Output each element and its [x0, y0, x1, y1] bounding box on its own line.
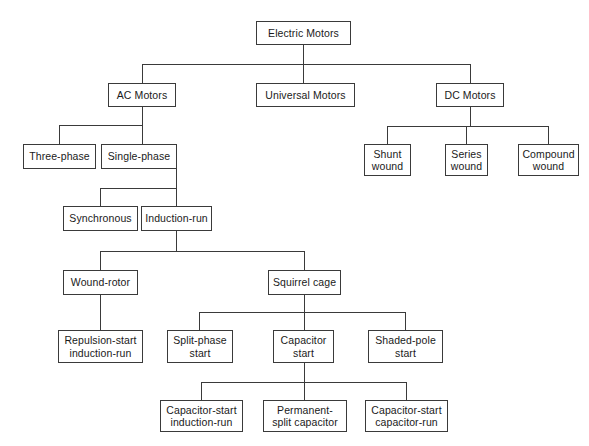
edge-drop-compound-wound — [548, 126, 549, 144]
node-capacitor-start[interactable]: Capacitor start — [273, 330, 334, 363]
edge-single-phase-bus — [100, 188, 177, 189]
edge-drop-capacitor-start-capacitor — [406, 382, 407, 400]
faint-header-text — [150, 0, 589, 10]
edge-single-phase-stem — [176, 169, 177, 188]
node-electric-motors[interactable]: Electric Motors — [256, 21, 351, 45]
edge-drop-permanent-split-capacitor — [304, 382, 305, 400]
node-three-phase[interactable]: Three-phase — [23, 144, 96, 169]
edge-electric-motors-stem — [303, 45, 304, 65]
node-squirrel-cage[interactable]: Squirrel cage — [268, 270, 341, 295]
node-synchronous[interactable]: Synchronous — [63, 206, 138, 231]
motor-classification-diagram: Electric Motors AC Motors Universal Moto… — [0, 0, 589, 446]
edge-drop-universal-motors — [303, 64, 304, 83]
edge-drop-shunt-wound — [387, 126, 388, 144]
edge-drop-wound-rotor — [100, 251, 101, 270]
edge-induction-run-stem — [176, 231, 177, 252]
node-single-phase[interactable]: Single-phase — [101, 144, 177, 169]
edge-capacitor-start-stem — [304, 363, 305, 383]
edge-squirrel-cage-stem — [304, 295, 305, 313]
edge-drop-dc-motors — [470, 64, 471, 83]
node-universal-motors[interactable]: Universal Motors — [256, 83, 355, 107]
edge-drop-synchronous — [100, 188, 101, 206]
node-dc-motors[interactable]: DC Motors — [436, 83, 504, 107]
edge-drop-three-phase — [59, 125, 60, 144]
edge-drop-series-wound — [466, 126, 467, 144]
edge-drop-capacitor-start-induction — [201, 382, 202, 400]
node-compound-wound[interactable]: Compound wound — [518, 144, 579, 176]
edge-dc-motors-stem — [470, 107, 471, 127]
node-wound-rotor[interactable]: Wound-rotor — [63, 270, 138, 295]
node-ac-motors[interactable]: AC Motors — [108, 83, 176, 107]
node-shunt-wound[interactable]: Shunt wound — [364, 144, 411, 176]
node-permanent-split-capacitor[interactable]: Permanent- split capacitor — [263, 400, 347, 432]
node-shaded-pole-start[interactable]: Shaded-pole start — [368, 330, 443, 363]
node-capacitor-start-capacitor-run[interactable]: Capacitor-start capacitor-run — [365, 400, 448, 432]
node-series-wound[interactable]: Series wound — [445, 144, 488, 176]
edge-drop-induction-run — [176, 188, 177, 206]
node-repulsion-start[interactable]: Repulsion-start induction-run — [58, 330, 143, 363]
edge-drop-shaded-pole-start — [405, 312, 406, 330]
edge-induction-run-bus — [100, 251, 305, 252]
edge-drop-capacitor-start — [304, 312, 305, 330]
edge-squirrel-cage-bus — [199, 312, 406, 313]
edge-dc-motors-bus — [387, 126, 549, 127]
edge-level1-bus — [142, 64, 471, 65]
edge-drop-squirrel-cage — [304, 251, 305, 270]
edge-drop-ac-motors — [142, 64, 143, 83]
edge-drop-split-phase-start — [199, 312, 200, 330]
node-capacitor-start-induction-run[interactable]: Capacitor-start induction-run — [160, 400, 243, 432]
node-induction-run[interactable]: Induction-run — [141, 206, 212, 231]
edge-ac-motors-bus — [59, 125, 143, 126]
edge-wound-rotor-stem — [100, 295, 101, 330]
node-split-phase-start[interactable]: Split-phase start — [167, 330, 233, 363]
